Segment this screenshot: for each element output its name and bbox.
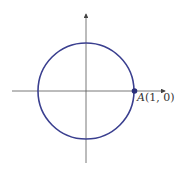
unit-circle-diagram: A(1, 0) (0, 0, 181, 173)
point-a-label: A(1, 0) (137, 91, 175, 104)
diagram-canvas (0, 0, 181, 173)
